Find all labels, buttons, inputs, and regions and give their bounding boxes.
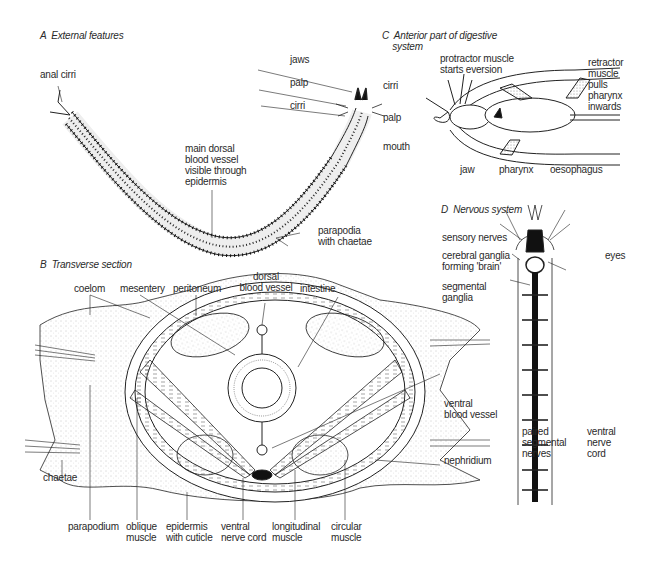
label-peritoneum: peritoneum [173,283,221,294]
label-ventral-blood-vessel: ventral blood vessel [444,398,497,420]
panel-b-title: B Transverse section [40,259,132,270]
label-segmental-ganglia: segmental ganglia [442,281,486,303]
label-oesophagus: oesophagus [550,164,603,175]
label-cirri-a: cirri [290,100,305,111]
panel-a-title: A External features [40,30,123,41]
label-palp-c: palp [383,112,401,123]
label-jaw: jaw [460,164,474,175]
label-mesentery: mesentery [120,283,165,294]
label-intestine: intestine [300,283,335,294]
label-ventral-nerve-cord-d: ventral nerve cord [587,426,616,459]
label-epidermis: epidermis with cuticle [166,521,213,543]
label-eyes: eyes [605,250,625,261]
panel-c-title: C Anterior part of digestive system [382,30,497,52]
label-circular-muscle: circular muscle [331,521,362,543]
label-pharynx: pharynx [499,164,533,175]
label-oblique-muscle: oblique muscle [126,521,157,543]
label-anal-cirri: anal cirri [40,69,76,80]
label-retractor-muscle: retractor muscle pulls pharynx inwards [588,57,623,112]
label-protractor-muscle: protractor muscle starts eversion [440,53,514,75]
label-longitudinal-muscle: longitudinal muscle [272,521,320,543]
nervous-system [500,205,570,505]
label-cirri-c: cirri [383,80,398,91]
label-cerebral-ganglia: cerebral ganglia forming 'brain' [442,250,510,272]
label-nephridium: nephridium [444,455,491,466]
panel-d-title: D Nervous system [441,204,522,215]
label-chaetae: chaetae [43,472,77,483]
label-ventral-nerve-cord-b: ventral nerve cord [221,521,266,543]
transverse-section [25,274,490,520]
label-palp-a: palp [290,77,308,88]
label-parapodia: parapodia with chaetae [318,225,372,247]
label-sensory-nerves: sensory nerves [442,232,507,243]
label-main-dorsal-vessel: main dorsal blood vessel visible through… [185,143,246,187]
label-mouth: mouth [383,141,410,152]
label-jaws: jaws [290,54,309,65]
label-parapodium: parapodium [68,521,119,532]
label-paired-segmental-nerves: paired segmental nerves [522,426,566,459]
label-coelom: coelom [74,283,105,294]
label-dorsal-blood-vessel: dorsal blood vessel [235,271,297,293]
